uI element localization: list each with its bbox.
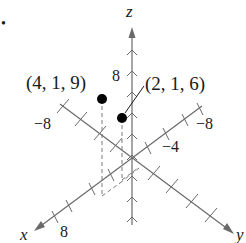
z-axis xyxy=(127,27,137,225)
3d-coordinate-diagram: • xyxy=(0,0,246,243)
z-axis-label: z xyxy=(125,2,133,21)
point-4-1-9 xyxy=(97,94,107,104)
x-tick-8: 8 xyxy=(60,223,68,240)
z-tick-8: 8 xyxy=(112,67,120,84)
y-axis-arrow-icon xyxy=(223,223,234,234)
bullet-marker: • xyxy=(1,16,6,31)
x-axis xyxy=(34,103,203,231)
y-axis-label: y xyxy=(234,225,244,243)
z-axis-arrow-icon xyxy=(129,27,136,38)
label-point-4-1-9: (4, 1, 9) xyxy=(26,72,86,94)
x-axis-label: x xyxy=(19,225,28,243)
point-2-1-6 xyxy=(117,113,127,123)
y-tick-neg-8: −8 xyxy=(196,115,213,132)
y-tick-neg-4: −4 xyxy=(162,138,179,155)
x-axis-arrow-icon xyxy=(34,221,45,231)
label-point-2-1-6: (2, 1, 6) xyxy=(145,73,205,95)
leader-line xyxy=(125,86,144,113)
x-tick-neg-8: −8 xyxy=(34,115,51,132)
